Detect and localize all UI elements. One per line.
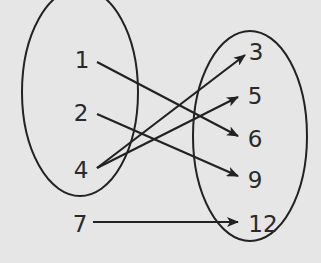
- range-value-6: 6: [248, 128, 263, 151]
- domain-value-1: 1: [75, 49, 90, 72]
- domain-value-4: 4: [74, 159, 89, 182]
- arrow-4-to-3: [97, 55, 245, 168]
- domain-value-7: 7: [73, 213, 88, 236]
- range-value-9: 9: [248, 169, 263, 192]
- range-value-12: 12: [248, 213, 277, 236]
- range-value-3: 3: [249, 41, 264, 64]
- arrow-1-to-6: [97, 62, 238, 136]
- arrow-4-to-5: [97, 97, 238, 168]
- arrow-2-to-9: [97, 114, 238, 176]
- domain-value-2: 2: [74, 102, 89, 125]
- range-value-5: 5: [248, 85, 263, 108]
